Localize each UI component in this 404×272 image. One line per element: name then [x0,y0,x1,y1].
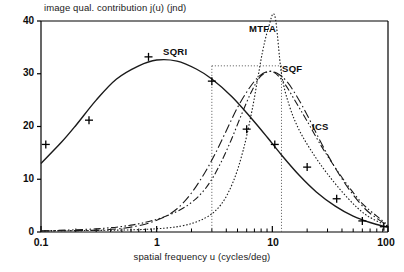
data-point-markers [42,53,388,231]
plot-canvas [0,0,404,272]
sqf-reference-box [212,66,282,232]
axis-ticks [37,21,388,232]
chart-figure: image qual. contribution j(u) (jnd) 40 3… [0,0,404,272]
axis-frame [41,21,388,232]
